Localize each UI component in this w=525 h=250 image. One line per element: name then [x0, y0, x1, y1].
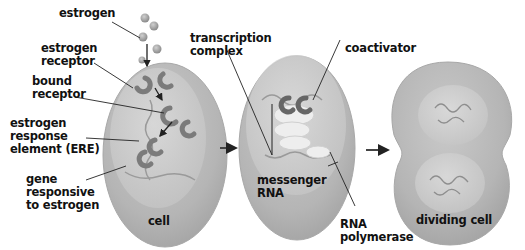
label-ere-line2: response	[10, 130, 68, 143]
label-transcription-complex-line1: transcription	[190, 32, 272, 45]
label-transcription-complex-line2: complex	[190, 45, 243, 58]
caption-cell: cell	[148, 215, 170, 228]
label-gene-line1: gene	[26, 173, 57, 186]
label-ere-line3: element (ERE)	[10, 143, 100, 156]
label-messenger-rna-line2: RNA	[257, 187, 284, 200]
label-estrogen-receptor-line2: receptor	[41, 55, 95, 68]
label-rna-polymerase-line2: polymerase	[340, 231, 413, 244]
label-estrogen-receptor-line1: estrogen	[41, 42, 97, 55]
label-bound-receptor-line2: receptor	[32, 88, 86, 101]
label-estrogen: estrogen	[59, 7, 115, 20]
label-gene-line3: to estrogen	[26, 199, 99, 212]
label-gene-line2: responsive	[26, 186, 95, 199]
label-coactivator: coactivator	[345, 42, 416, 55]
estrogen-molecule	[141, 14, 150, 23]
daughter-nucleus-top	[418, 85, 488, 145]
label-bound-receptor-line1: bound	[32, 75, 72, 88]
transcription-panel	[226, 40, 355, 240]
label-messenger-rna-line1: messenger	[257, 174, 326, 187]
label-ere-line1: estrogen	[10, 117, 66, 130]
label-rna-polymerase-line1: RNA	[340, 218, 367, 231]
caption-dividing-cell: dividing cell	[416, 214, 492, 227]
estrogen-diagram: estrogen estrogen receptor bound recepto…	[0, 0, 525, 250]
